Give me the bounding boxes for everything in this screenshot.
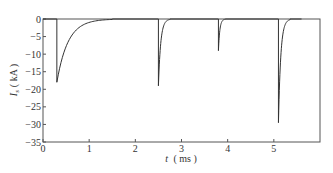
x-tick-label: 1	[87, 143, 92, 154]
chart: 0−5−10−15−20−25−30−35 012345 t ( ms ) Is…	[0, 0, 333, 173]
current-series	[43, 19, 302, 123]
x-axis-label: t ( ms )	[165, 153, 197, 165]
x-tick-label: 2	[133, 143, 138, 154]
y-tick-label: −15	[25, 66, 41, 77]
y-tick-label: −25	[25, 101, 41, 112]
x-tick-label: 5	[271, 143, 276, 154]
y-tick-label: −5	[30, 31, 41, 42]
y-tick-label: −10	[25, 49, 41, 60]
current-line	[43, 19, 302, 123]
y-axis-label: Is( kA )	[8, 64, 21, 97]
y-tick-label: −20	[25, 84, 41, 95]
y-tick-label: −35	[25, 137, 41, 148]
x-axis-ticks: 012345	[41, 139, 277, 154]
y-tick-label: 0	[36, 14, 41, 25]
y-tick-label: −30	[25, 119, 41, 130]
x-tick-label: 4	[225, 143, 230, 154]
x-tick-label: 0	[41, 143, 46, 154]
